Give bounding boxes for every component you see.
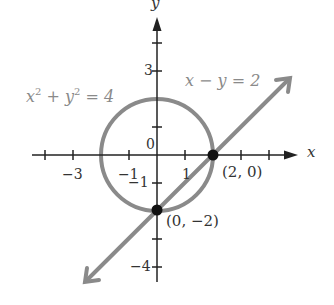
graph-figure: y x 3 0 −3 −1 1 −1 −4 x2 + y2 = 4 x − y … [0,0,334,305]
graph-canvas [0,0,334,305]
x-axis-label: x [307,143,315,161]
x-tick-1: 1 [182,166,191,182]
origin-label: 0 [146,136,155,152]
y-axis-arrow-icon [153,17,162,31]
point-0-neg2 [152,205,163,216]
y-axis-label: y [151,0,159,12]
point-label-0-neg2: (0, −2) [166,212,219,230]
x-axis [32,150,292,160]
point-2-0 [208,150,219,161]
line-equation-label: x − y = 2 [185,71,260,90]
x-axis-arrow-icon [284,151,298,160]
circle-equation-label: x2 + y2 = 4 [26,86,114,106]
x-tick-neg3: −3 [62,166,83,182]
point-label-2-0: (2, 0) [222,163,262,181]
y-tick-neg1: −1 [128,174,149,190]
y-tick-neg4: −4 [130,258,151,274]
y-tick-3: 3 [144,62,153,78]
